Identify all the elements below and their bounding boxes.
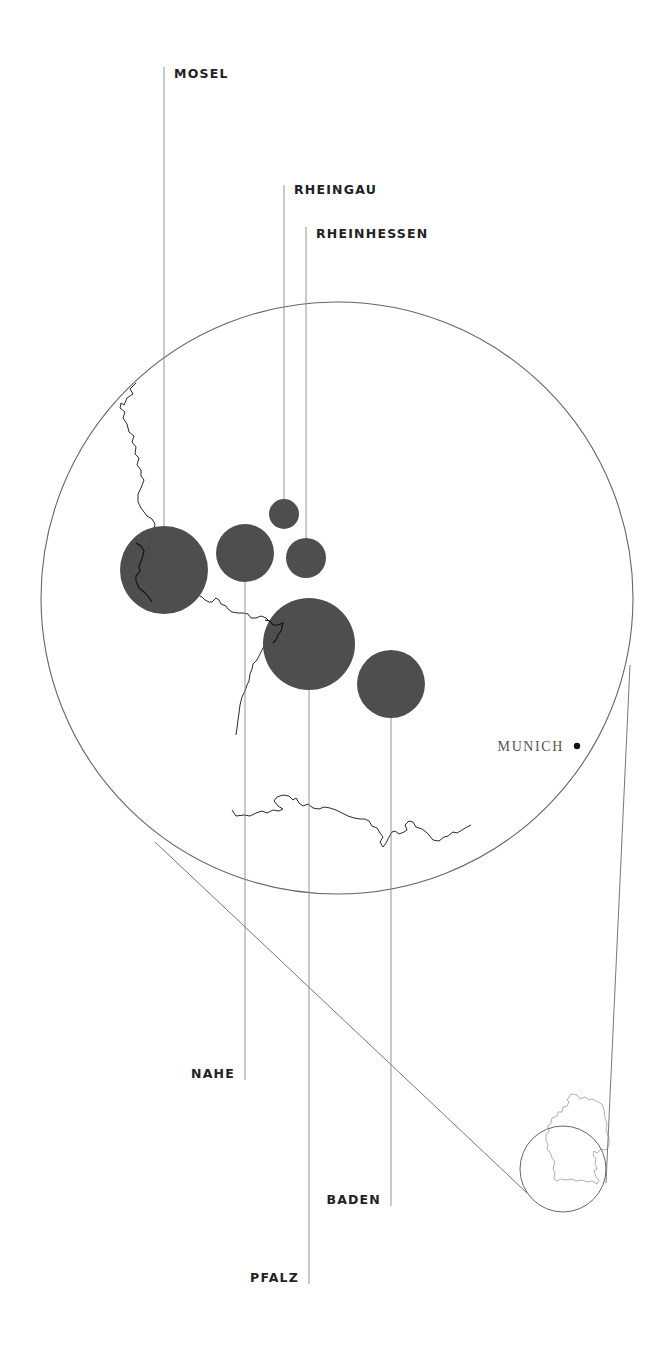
inset-germany-outline [546, 1094, 609, 1184]
connector-line-left [155, 842, 527, 1193]
label-pfalz: PFALZ [250, 1270, 299, 1285]
bubble-mosel[interactable] [120, 526, 208, 614]
label-rheinhessen: RHEINHESSEN [316, 226, 428, 241]
connector-line-right [606, 665, 630, 1183]
label-mosel: MOSEL [174, 66, 229, 81]
city-dot-munich [574, 743, 580, 749]
label-rheingau: RHEINGAU [294, 182, 377, 197]
bubble-rheingau[interactable] [269, 499, 299, 529]
city-label-munich: MUNICH [498, 739, 564, 754]
bubble-baden[interactable] [357, 650, 425, 718]
bubble-rheinhessen[interactable] [286, 538, 326, 578]
inset-circle [520, 1126, 606, 1212]
zoom-circle [41, 302, 633, 894]
bubble-nahe[interactable] [216, 524, 274, 582]
bubble-pfalz[interactable] [263, 598, 355, 690]
wine-region-map: MOSEL RHEINGAU RHEINHESSEN NAHE PFALZ BA… [0, 0, 668, 1352]
label-nahe: NAHE [191, 1066, 235, 1081]
label-baden: BADEN [326, 1192, 381, 1207]
